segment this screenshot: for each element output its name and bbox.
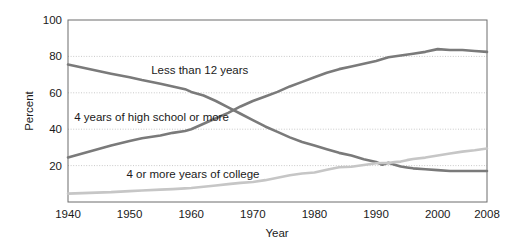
x-axis-title: Year <box>265 227 288 239</box>
y-tick-20: 20 <box>49 160 62 172</box>
x-tick-2000: 2000 <box>425 208 451 220</box>
x-tick-1960: 1960 <box>178 208 204 220</box>
x-tick-1980: 1980 <box>302 208 328 220</box>
x-tick-1990: 1990 <box>363 208 389 220</box>
series-inline-labels: Less than 12 years4 years of high school… <box>74 64 259 180</box>
y-axis-tick-labels: 20406080100 <box>43 14 62 172</box>
series-label-2: 4 or more years of college <box>127 168 260 180</box>
y-axis-title: Percent <box>23 90 35 130</box>
x-axis-tick-labels: 19401950196019701980199020002008 <box>55 208 500 220</box>
y-tick-100: 100 <box>43 14 62 26</box>
x-tick-1970: 1970 <box>240 208 266 220</box>
chart-canvas: 20406080100 1940195019601970198019902000… <box>0 0 520 244</box>
education-attainment-line-chart: 20406080100 1940195019601970198019902000… <box>0 0 520 244</box>
series-line-1 <box>68 49 487 157</box>
series-label-1: 4 years of high school or more <box>74 111 229 123</box>
y-tick-40: 40 <box>49 123 62 135</box>
series-label-0: Less than 12 years <box>151 64 248 76</box>
y-tick-60: 60 <box>49 87 62 99</box>
x-tick-1940: 1940 <box>55 208 81 220</box>
y-tick-80: 80 <box>49 50 62 62</box>
x-tick-1950: 1950 <box>117 208 143 220</box>
x-tick-2008: 2008 <box>474 208 500 220</box>
